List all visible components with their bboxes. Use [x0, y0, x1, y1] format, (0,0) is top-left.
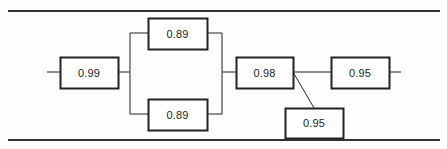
block-0-95-right-box: [332, 58, 390, 89]
block-0-89-top-box: [149, 19, 208, 50]
block-boxes: [61, 19, 390, 139]
block-0-98-box: [237, 58, 294, 89]
diagram-canvas: [0, 0, 447, 149]
block-0-99-box: [61, 58, 119, 89]
block-0-95-lower-box: [286, 109, 344, 139]
reliability-block-diagram: 0.990.890.890.980.950.95: [0, 0, 447, 149]
block-0-89-bottom-box: [149, 100, 208, 131]
diagonal-to-lower-block: [293, 72, 314, 108]
